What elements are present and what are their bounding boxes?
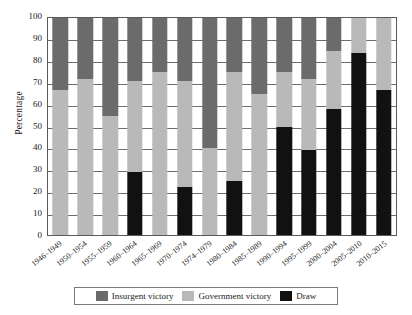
bar-column[interactable] — [73, 18, 98, 235]
bar-segment[interactable] — [177, 18, 192, 81]
bar-segment[interactable] — [78, 79, 93, 235]
stacked-bar[interactable] — [326, 18, 341, 235]
bar-column[interactable] — [123, 18, 148, 235]
y-axis-tick: 100 — [29, 12, 43, 21]
bar-segment[interactable] — [351, 53, 366, 235]
stacked-bar[interactable] — [301, 18, 316, 235]
bar-column[interactable] — [98, 18, 123, 235]
legend-label: Draw — [296, 291, 316, 301]
bar-column[interactable] — [222, 18, 247, 235]
bar-segment[interactable] — [351, 18, 366, 53]
stacked-bar[interactable] — [102, 18, 117, 235]
bar-segment[interactable] — [152, 18, 167, 72]
bar-segment[interactable] — [301, 79, 316, 151]
y-axis-tick: 0 — [38, 231, 43, 240]
bar-column[interactable] — [272, 18, 297, 235]
bar-segment[interactable] — [127, 18, 142, 81]
bar-column[interactable] — [297, 18, 322, 235]
bar-segment[interactable] — [326, 51, 341, 110]
stacked-bar[interactable] — [202, 18, 217, 235]
bar-column[interactable] — [172, 18, 197, 235]
legend-item[interactable]: Government victory — [182, 291, 271, 301]
y-axis-tick: 70 — [33, 78, 42, 87]
y-axis-tick: 90 — [33, 34, 42, 43]
legend-swatch-icon — [182, 291, 194, 301]
bar-segment[interactable] — [376, 18, 391, 90]
legend-swatch-icon — [280, 291, 292, 301]
y-axis-tick: 20 — [33, 187, 42, 196]
x-axis-tick-cell: 2010–2015 — [372, 237, 397, 289]
bar-column[interactable] — [197, 18, 222, 235]
plot-area — [47, 17, 397, 236]
bar-segment[interactable] — [127, 81, 142, 172]
y-axis-tick: 80 — [33, 56, 42, 65]
y-axis-tick: 10 — [33, 209, 42, 218]
legend-item[interactable]: Insurgent victory — [96, 291, 174, 301]
bar-column[interactable] — [147, 18, 172, 235]
bar-segment[interactable] — [276, 72, 291, 126]
bar-segment[interactable] — [53, 18, 68, 90]
stacked-bar[interactable] — [276, 18, 291, 235]
bar-column[interactable] — [346, 18, 371, 235]
bar-column[interactable] — [321, 18, 346, 235]
bar-segment[interactable] — [102, 18, 117, 116]
y-axis-tick: 60 — [33, 100, 42, 109]
bar-segment[interactable] — [227, 72, 242, 181]
legend-label: Government victory — [198, 291, 271, 301]
y-axis-tick: 30 — [33, 165, 42, 174]
stacked-bar[interactable] — [78, 18, 93, 235]
y-axis-tick-labels: 0102030405060708090100 — [0, 0, 47, 253]
stacked-bar[interactable] — [252, 18, 267, 235]
bar-segment[interactable] — [252, 18, 267, 94]
stacked-bar-chart: Percentage 0102030405060708090100 1946–1… — [0, 0, 412, 315]
bar-segment[interactable] — [301, 18, 316, 79]
bar-segment[interactable] — [177, 81, 192, 187]
bar-segment[interactable] — [326, 109, 341, 235]
y-axis-tick: 50 — [33, 122, 42, 131]
legend-label: Insurgent victory — [112, 291, 174, 301]
chart-legend: Insurgent victoryGovernment victoryDraw — [74, 287, 338, 305]
stacked-bar[interactable] — [177, 18, 192, 235]
bar-segment[interactable] — [202, 18, 217, 148]
bar-segment[interactable] — [326, 18, 341, 51]
bar-segment[interactable] — [53, 90, 68, 235]
x-axis-tick-labels: 1946–19491950–19541955–19591960–19641965… — [47, 237, 397, 289]
bar-segment[interactable] — [252, 94, 267, 235]
bar-segment[interactable] — [152, 72, 167, 235]
stacked-bar[interactable] — [376, 18, 391, 235]
legend-swatch-icon — [96, 291, 108, 301]
stacked-bar[interactable] — [351, 18, 366, 235]
bar-column[interactable] — [48, 18, 73, 235]
bar-column[interactable] — [247, 18, 272, 235]
bar-segment[interactable] — [276, 18, 291, 72]
stacked-bar[interactable] — [227, 18, 242, 235]
stacked-bar[interactable] — [127, 18, 142, 235]
y-axis-tick: 40 — [33, 143, 42, 152]
bar-segment[interactable] — [376, 90, 391, 235]
bar-column[interactable] — [371, 18, 396, 235]
bar-segment[interactable] — [78, 18, 93, 79]
stacked-bar[interactable] — [152, 18, 167, 235]
bar-series-container — [48, 18, 396, 235]
bar-segment[interactable] — [227, 18, 242, 72]
stacked-bar[interactable] — [53, 18, 68, 235]
legend-item[interactable]: Draw — [280, 291, 316, 301]
